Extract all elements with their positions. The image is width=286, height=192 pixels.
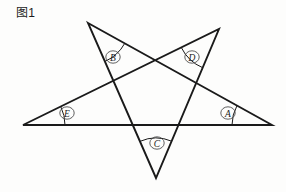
angle-label-text-a: A [224, 109, 231, 119]
angle-arc-group [61, 43, 237, 141]
pentagram-outline [23, 23, 272, 178]
angle-label-text-d: D [188, 53, 196, 63]
angle-label-group: BDACE [60, 51, 235, 149]
pentagram-diagram: BDACE [0, 0, 286, 192]
angle-label-text-e: E [63, 109, 70, 119]
figure-container: 图1 BDACE [0, 0, 286, 192]
angle-label-text-c: C [154, 139, 161, 149]
angle-label-b: B [106, 51, 120, 63]
angle-label-a: A [221, 107, 235, 119]
angle-label-c: C [150, 137, 164, 149]
angle-label-e: E [60, 107, 74, 119]
angle-label-text-b: B [110, 53, 116, 63]
